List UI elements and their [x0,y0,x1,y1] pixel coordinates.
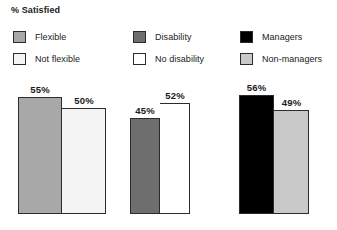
bar-item-not-flexible[interactable]: 50% [62,108,106,215]
bar-rect [239,95,274,214]
bar-rect [274,110,309,214]
bar-rect [18,97,62,214]
chart-root: % Satisfied Flexible Not flexible Disabi… [0,0,337,230]
bar-group-bars: 56% 49% [239,95,309,214]
bar-value-label: 49% [274,97,309,110]
bar-value-label: 55% [18,84,62,97]
bar-rect [130,118,160,214]
bar-value-label: 52% [160,90,190,103]
bar-value-label: 56% [239,82,274,95]
bar-group-bars: 55% 50% [18,97,106,214]
bar-item-disability[interactable]: 45% [130,118,160,214]
bar-value-label: 45% [130,105,160,118]
bar-item-flexible[interactable]: 55% [18,97,62,214]
bar-item-no-disability[interactable]: 52% [160,103,190,214]
plot-area: 55% 50% 45% 52% [0,0,337,230]
bar-rect [62,108,106,215]
bar-rect [160,103,190,214]
bar-item-non-managers[interactable]: 49% [274,110,309,214]
bar-group-bars: 45% 52% [130,103,190,214]
bar-value-label: 50% [62,95,106,108]
bar-item-managers[interactable]: 56% [239,95,274,214]
